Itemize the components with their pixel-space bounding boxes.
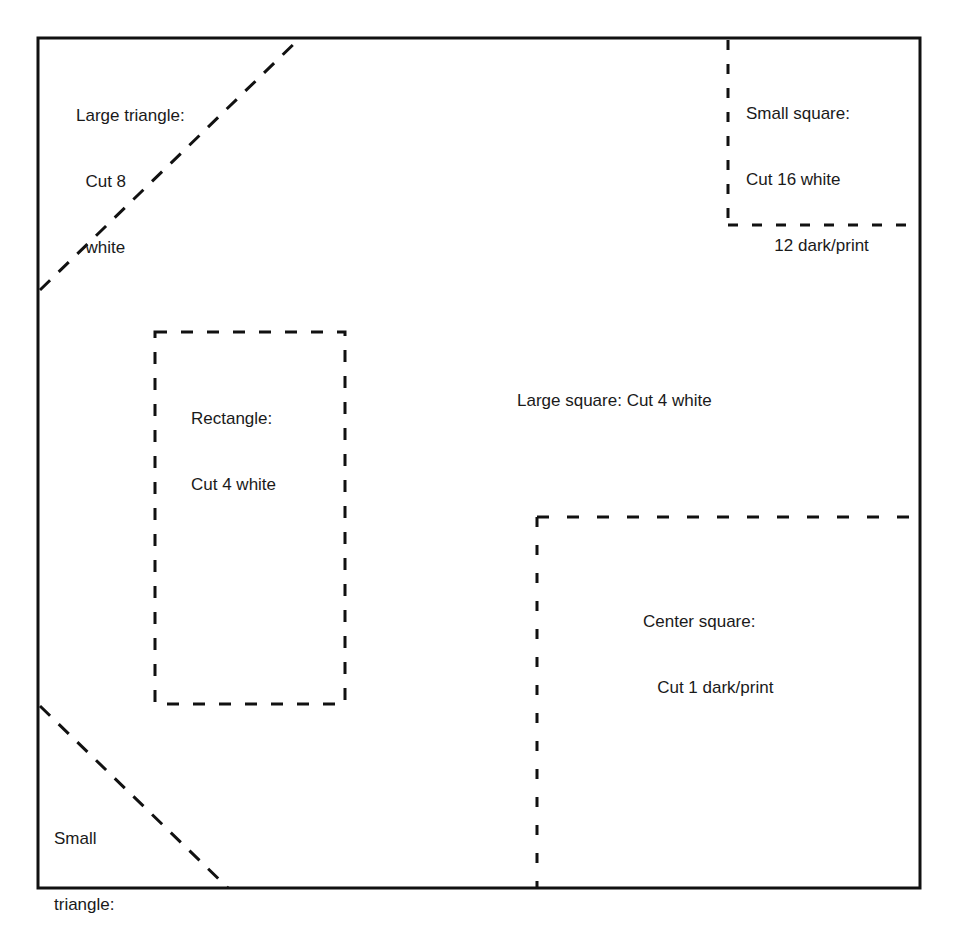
label-line: white	[76, 237, 185, 259]
center-square-label: Center square: Cut 1 dark/print	[643, 567, 773, 721]
small-triangle-label: Small triangle: Cut 16 white	[54, 784, 114, 938]
label-line: Small	[54, 828, 114, 850]
label-line: 12 dark/print	[746, 235, 869, 257]
label-line: Cut 1 dark/print	[643, 677, 773, 699]
large-square-label: Large square: Cut 4 white	[517, 346, 712, 434]
label-line: Center square:	[643, 611, 773, 633]
small-square-label: Small square: Cut 16 white 12 dark/print	[746, 59, 869, 279]
label-line: Cut 8	[76, 171, 185, 193]
label-line: Cut 4 white	[191, 474, 276, 496]
label-line: Large square: Cut 4 white	[517, 390, 712, 412]
label-line: Small square:	[746, 103, 869, 125]
rectangle-label: Rectangle: Cut 4 white	[191, 364, 276, 518]
label-line: Large triangle:	[76, 105, 185, 127]
label-line: triangle:	[54, 894, 114, 916]
large-triangle-label: Large triangle: Cut 8 white	[76, 61, 185, 281]
label-line: Rectangle:	[191, 408, 276, 430]
label-line: Cut 16 white	[746, 169, 869, 191]
